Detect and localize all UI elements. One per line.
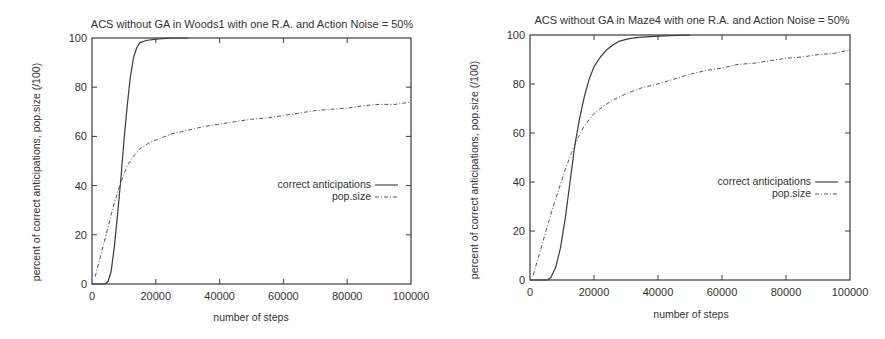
y-tick-label: 80 (513, 78, 525, 90)
x-tick-label: 100000 (393, 290, 430, 302)
y-tick-label: 60 (75, 130, 87, 142)
legend: correct anticipations pop.size (718, 175, 838, 199)
y-tick-label: 100 (507, 29, 525, 41)
x-tick-label: 20000 (141, 290, 172, 302)
y-tick-label: 40 (513, 176, 525, 188)
plot-frame (92, 38, 411, 284)
y-tick-label: 60 (513, 127, 525, 139)
chart-woods1: ACS without GA in Woods1 with one R.A. a… (0, 0, 440, 339)
y-axis-label: percent of correct anticipations, pop.si… (468, 61, 480, 279)
x-tick-label: 0 (527, 286, 533, 298)
chart-maze4-svg: ACS without GA in Maze4 with one R.A. an… (440, 0, 885, 339)
series-correct-anticipations (530, 35, 690, 280)
y-tick-label: 0 (81, 278, 87, 290)
y-axis-label: percent of correct anticipations, pop.si… (30, 63, 42, 281)
x-tick-label: 40000 (643, 286, 674, 298)
x-tick-label: 80000 (771, 286, 802, 298)
x-tick-label: 60000 (707, 286, 738, 298)
x-axis-label: number of steps (213, 311, 288, 323)
y-tick-label: 0 (519, 274, 525, 286)
chart-maze4: ACS without GA in Maze4 with one R.A. an… (440, 0, 885, 339)
legend-pop-size: pop.size (332, 190, 371, 202)
y-tick-label: 40 (75, 180, 87, 192)
plot-area: 020000400006000080000100000020406080100 (69, 32, 430, 302)
plot-frame (530, 35, 850, 280)
x-tick-label: 80000 (332, 290, 363, 302)
x-tick-label: 0 (89, 290, 95, 302)
x-axis-label: number of steps (653, 308, 728, 320)
x-tick-label: 20000 (579, 286, 610, 298)
y-tick-label: 80 (75, 81, 87, 93)
legend-correct-anticipations: correct anticipations (278, 178, 371, 190)
legend: correct anticipations pop.size (278, 178, 398, 202)
legend-correct-anticipations: correct anticipations (718, 175, 811, 187)
x-tick-label: 100000 (832, 286, 869, 298)
chart-title: ACS without GA in Maze4 with one R.A. an… (534, 14, 849, 26)
chart-title: ACS without GA in Woods1 with one R.A. a… (91, 18, 414, 30)
y-tick-label: 20 (513, 225, 525, 237)
chart-woods1-svg: ACS without GA in Woods1 with one R.A. a… (0, 0, 440, 339)
x-tick-label: 40000 (204, 290, 235, 302)
legend-pop-size: pop.size (772, 187, 811, 199)
y-tick-label: 100 (69, 32, 87, 44)
series-pop-size (533, 50, 850, 275)
x-tick-label: 60000 (268, 290, 299, 302)
series-correct-anticipations (92, 38, 188, 284)
plot-area: 020000400006000080000100000020406080100 (507, 29, 869, 298)
y-tick-label: 20 (75, 229, 87, 241)
